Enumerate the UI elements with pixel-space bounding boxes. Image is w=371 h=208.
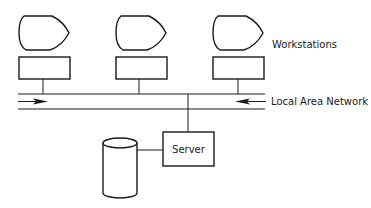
local-area-network-bus	[18, 94, 266, 109]
workstation-box	[213, 57, 264, 79]
workstation-box	[116, 57, 167, 79]
server: Server	[163, 94, 214, 166]
database-cylinder-icon	[103, 138, 137, 198]
workstation-3	[213, 16, 264, 94]
monitor-icon	[19, 16, 69, 50]
lan-diagram: Workstations Local Area Network Server	[0, 0, 371, 208]
arrow-left-icon	[235, 99, 266, 105]
workstations-label: Workstations	[272, 39, 337, 50]
workstation-box	[19, 57, 70, 79]
network-label: Local Area Network	[271, 96, 368, 107]
monitor-icon	[116, 16, 166, 50]
server-label: Server	[172, 144, 206, 155]
storage	[103, 138, 163, 198]
workstation-1	[19, 16, 70, 94]
workstation-2	[116, 16, 167, 94]
monitor-icon	[213, 16, 263, 50]
arrow-right-icon	[18, 99, 48, 105]
